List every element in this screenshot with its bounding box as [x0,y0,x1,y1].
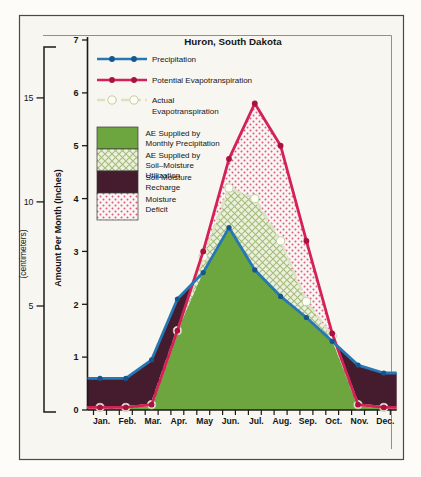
water-balance-chart: 01234567Jan.Feb.Mar.Apr.MayJun.Jul.Aug.S… [0,0,421,477]
legend-soil-moisture-recharge-swatch [97,171,138,193]
legend-moisture-deficit-label: Moisture [146,195,177,204]
legend-moisture-deficit-swatch [97,193,138,220]
month-label: Jul. [249,416,264,426]
month-label: May [196,416,213,426]
month-label: Nov. [351,416,369,426]
precipitation-point [226,225,231,230]
chart-title: Huron, South Dakota [184,36,282,47]
month-label: Apr. [171,416,188,426]
legend-actual-evapotranspiration-label: Evapotranspiration [152,107,219,116]
inch-tick-label: 0 [73,405,78,415]
legend-dot-marker [131,56,137,62]
actual-evapotranspiration-point [302,298,310,306]
potential-evapotranspiration-point [97,405,103,411]
legend-dot-marker [109,77,115,83]
inch-tick-label: 7 [73,35,78,45]
legend-circle-marker [108,96,116,104]
potential-evapotranspiration-point [329,331,335,337]
legend-ae-soil-moisture-utilization-label: AE Supplied by [146,151,201,160]
precipitation-point [97,376,102,381]
month-label: Oct. [325,416,342,426]
legend-circle-marker [130,96,138,104]
potential-evapotranspiration-point [278,143,284,149]
legend-ae-soil-moisture-utilization-label: Soil–Moisture [146,161,195,170]
inch-tick-label: 1 [73,352,78,362]
inch-tick-label: 2 [73,300,78,310]
precipitation-point [278,294,283,299]
inch-tick-label: 3 [73,247,78,257]
actual-evapotranspiration-point [251,195,259,203]
potential-evapotranspiration-point [381,405,387,411]
legend-actual-evapotranspiration-label: Actual [152,96,174,105]
precipitation-point [355,363,360,368]
precipitation-point [330,339,335,344]
cm-tick-label: 5 [29,301,34,311]
month-label: Mar. [144,416,161,426]
precipitation-point [149,357,154,362]
inch-tick-label: 6 [73,88,78,98]
legend-ae-monthly-precipitation-swatch [97,127,138,149]
month-label: Aug. [273,416,292,426]
potential-evapotranspiration-point [149,402,155,408]
potential-evapotranspiration-point [226,156,232,162]
legend-precipitation-label: Precipitation [152,55,196,64]
month-label: Jun. [222,416,240,426]
legend-moisture-deficit-label: Deficit [146,205,169,214]
month-label: Dec. [376,416,394,426]
month-label: Feb. [118,416,136,426]
precipitation-point [123,376,128,381]
potential-evapotranspiration-point [175,328,181,334]
potential-evapotranspiration-point [304,238,310,244]
legend-ae-soil-moisture-utilization-swatch [97,149,138,171]
legend-dot-marker [109,56,115,62]
precipitation-point [304,315,309,320]
precipitation-point [252,267,257,272]
legend-soil-moisture-recharge-label: Soil Moisture [146,173,193,182]
precipitation-point [201,270,206,275]
cm-axis-title: (centimeters) [18,229,28,278]
cm-tick-label: 15 [24,93,34,103]
actual-evapotranspiration-point [277,237,285,245]
inches-axis-title: Amount Per Month (Inches) [53,169,63,287]
water-balance-figure: 01234567Jan.Feb.Mar.Apr.MayJun.Jul.Aug.S… [0,0,421,477]
potential-evapotranspiration-point [252,101,258,107]
inch-tick-label: 4 [73,194,78,204]
potential-evapotranspiration-point [123,405,129,411]
actual-evapotranspiration-point [225,184,233,192]
legend-dot-marker [131,77,137,83]
potential-evapotranspiration-point [355,402,361,408]
legend-potential-evapotranspiration-label: Potential Evapotranspiration [152,76,252,85]
legend-ae-monthly-precipitation-label: Monthly Precipitation [146,139,220,148]
month-label: Jan. [93,416,110,426]
legend-soil-moisture-recharge-label: Recharge [146,183,181,192]
cm-tick-label: 10 [24,197,34,207]
legend-ae-monthly-precipitation-label: AE Supplied by [146,129,201,138]
precipitation-point [175,296,180,301]
precipitation-point [381,370,386,375]
potential-evapotranspiration-point [200,249,206,255]
month-label: Sep. [299,416,317,426]
inch-tick-label: 5 [73,141,78,151]
